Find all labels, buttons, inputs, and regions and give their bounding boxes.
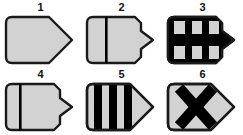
shape-cell-5: 5	[81, 67, 162, 134]
shape-three-thick-bars	[85, 82, 159, 132]
shape-label-2: 2	[81, 1, 162, 14]
vertical-bar-1	[94, 82, 102, 132]
shape-label-5: 5	[81, 68, 162, 81]
shape-cell-3: 3	[162, 0, 243, 67]
shape-label-3: 3	[162, 1, 243, 14]
shape-cell-1: 1	[0, 0, 81, 67]
shape-plain-pentagon	[4, 15, 78, 65]
shape-graphic-4	[4, 82, 78, 132]
shape-graphic-3	[166, 15, 240, 65]
shape-x-cross	[166, 82, 240, 132]
shape-single-thin-line	[85, 15, 159, 65]
shape-label-6: 6	[162, 68, 243, 81]
shape-set-figure: 1 2	[0, 0, 243, 135]
vertical-bar-1	[185, 15, 192, 65]
vertical-bar-2	[202, 15, 209, 65]
shape-body-2	[87, 17, 153, 63]
shape-cell-4: 4	[0, 67, 81, 134]
shape-graphic-2	[85, 15, 159, 65]
shape-graphic-1	[4, 15, 78, 65]
vertical-line-1	[105, 16, 108, 64]
shape-label-4: 4	[0, 68, 81, 81]
shape-label-1: 1	[0, 1, 81, 14]
vertical-line-1	[19, 83, 22, 131]
shape-body-4	[6, 84, 72, 130]
vertical-bar-2	[109, 82, 117, 132]
shape-grid-cross-bars	[166, 15, 240, 65]
shape-single-thin-line-left	[4, 82, 78, 132]
shape-body-1	[6, 17, 72, 63]
shape-graphic-5	[85, 82, 159, 132]
vertical-bar-3	[124, 82, 132, 132]
shape-cell-2: 2	[81, 0, 162, 67]
shape-marking-5	[94, 82, 132, 132]
shape-marking-2	[105, 16, 108, 64]
shape-cell-6: 6	[162, 67, 243, 134]
shape-marking-4	[19, 83, 22, 131]
shape-graphic-6	[166, 82, 240, 132]
